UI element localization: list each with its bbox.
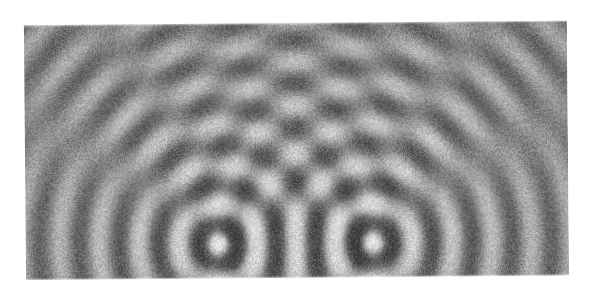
ripple-tank-photograph xyxy=(24,21,569,281)
figure-root xyxy=(0,0,589,299)
